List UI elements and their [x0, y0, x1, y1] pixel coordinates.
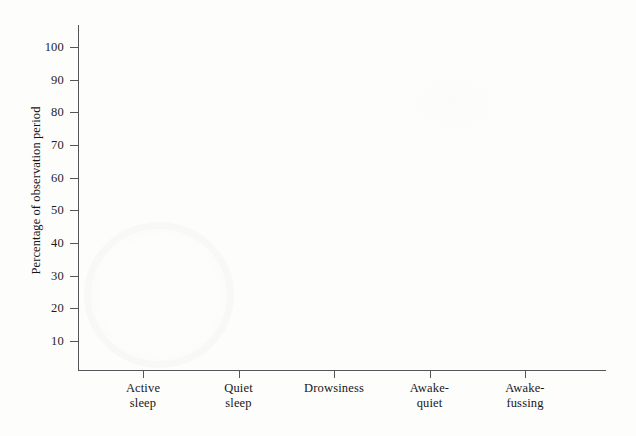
x-tick-label-line1: Awake-	[410, 381, 449, 395]
y-tick-label: 90	[34, 74, 64, 86]
x-tick-mark	[430, 370, 431, 378]
y-tick-label: 20	[34, 302, 64, 314]
y-tick-label-wrap: 20	[32, 302, 64, 314]
x-tick-label-line1: Active	[126, 381, 160, 395]
y-tick-mark	[70, 210, 78, 211]
y-tick-label: 100	[34, 41, 64, 53]
y-tick-label-wrap: 70	[32, 139, 64, 151]
y-tick-mark	[70, 47, 78, 48]
x-axis-line	[78, 370, 606, 371]
x-tick-label-line2: sleep	[179, 396, 299, 411]
y-tick-mark	[70, 243, 78, 244]
y-tick-label-wrap: 30	[32, 270, 64, 282]
y-tick-label: 80	[34, 106, 64, 118]
y-axis-title: Percentage of observation period	[29, 91, 44, 291]
y-tick-label-wrap: 10	[32, 335, 64, 347]
y-tick-mark	[70, 341, 78, 342]
x-tick-label: Awake-fussing	[465, 381, 585, 411]
x-tick-label-line2: fussing	[465, 396, 585, 411]
y-tick-label: 10	[34, 335, 64, 347]
y-tick-label-wrap: 100	[32, 41, 64, 53]
x-tick-mark	[143, 370, 144, 378]
y-tick-mark	[70, 276, 78, 277]
y-tick-label-wrap: 60	[32, 172, 64, 184]
x-tick-label-line1: Drowsiness	[304, 381, 364, 395]
y-tick-mark	[70, 145, 78, 146]
x-tick-label-line1: Quiet	[224, 381, 253, 395]
y-tick-label: 30	[34, 270, 64, 282]
y-tick-label: 40	[34, 237, 64, 249]
y-tick-label: 70	[34, 139, 64, 151]
y-tick-label-wrap: 80	[32, 106, 64, 118]
x-tick-mark	[334, 370, 335, 378]
y-tick-mark	[70, 80, 78, 81]
x-tick-mark	[239, 370, 240, 378]
y-tick-label-wrap: 50	[32, 204, 64, 216]
x-tick-mark	[525, 370, 526, 378]
y-tick-mark	[70, 308, 78, 309]
y-tick-mark	[70, 178, 78, 179]
x-tick-label-line1: Awake-	[505, 381, 544, 395]
y-tick-label-wrap: 90	[32, 74, 64, 86]
y-tick-label: 60	[34, 172, 64, 184]
y-tick-label-wrap: 40	[32, 237, 64, 249]
y-tick-label: 50	[34, 204, 64, 216]
plot-area	[79, 25, 606, 370]
chart-figure: Percentage of observation period 1020304…	[0, 0, 636, 436]
y-tick-mark	[70, 112, 78, 113]
